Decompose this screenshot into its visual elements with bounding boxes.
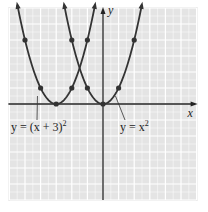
y-axis-label: y [107, 3, 114, 17]
data-point [85, 37, 90, 42]
curve-arrow-icon [139, 2, 144, 9]
data-point [38, 85, 43, 90]
data-point [69, 37, 74, 42]
curve-arrow-icon [62, 2, 67, 9]
series-label-superscript: 2 [145, 119, 149, 128]
parabola-chart: x y y = x2y = (x + 3)2 [0, 0, 208, 212]
data-point [22, 37, 27, 42]
curve-arrow-icon [92, 2, 97, 9]
series-label-superscript: 2 [63, 119, 67, 128]
series-label-x-plus-3-squared: y = (x + 3)2 [11, 119, 67, 134]
data-point [116, 85, 121, 90]
data-point [85, 85, 90, 90]
data-point [69, 85, 74, 90]
data-point [132, 37, 137, 42]
curve-arrow-icon [16, 2, 21, 9]
x-axis-label: x [187, 106, 194, 120]
series-label-x-squared: y = x2 [120, 119, 149, 134]
data-point [100, 101, 105, 106]
data-point [54, 101, 59, 106]
